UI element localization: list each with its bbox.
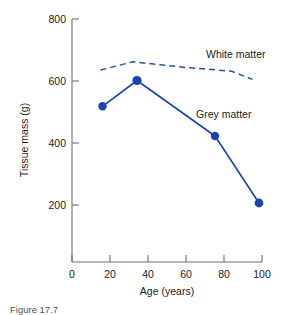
grey-matter-point-100 [255, 199, 264, 208]
white-matter-label: White matter [206, 48, 266, 60]
x-tick-label-60: 60 [180, 268, 192, 280]
figure-caption: Figure 17.7 [10, 304, 58, 315]
x-tick-label-40: 40 [142, 268, 154, 280]
y-tick-label-200: 200 [48, 199, 66, 211]
white-matter-line [101, 62, 253, 80]
grey-matter-point-82 [211, 132, 219, 140]
y-tick-label-400: 400 [48, 137, 66, 149]
tissue-mass-vs-age-chart: 800 600 400 200 0 20 40 60 80 100 Age (y… [0, 0, 283, 315]
y-ticks-group [72, 19, 79, 205]
x-tick-label-0: 0 [69, 268, 75, 280]
y-tick-labels-group: 800 600 400 200 [48, 13, 66, 211]
grey-matter-markers [98, 76, 263, 208]
grey-matter-label: Grey matter [196, 108, 252, 120]
x-tick-label-80: 80 [218, 268, 230, 280]
x-ticks-group [72, 255, 262, 262]
grey-matter-point-41 [132, 76, 141, 85]
grey-matter-point-22 [98, 102, 106, 110]
y-tick-label-600: 600 [48, 75, 66, 87]
x-tick-label-100: 100 [253, 268, 271, 280]
y-tick-label-800: 800 [48, 13, 66, 25]
figure-container: 800 600 400 200 0 20 40 60 80 100 Age (y… [0, 0, 283, 315]
x-axis-title: Age (years) [140, 285, 194, 297]
x-tick-labels-group: 0 20 40 60 80 100 [69, 268, 271, 280]
x-tick-label-20: 20 [104, 268, 116, 280]
grey-matter-line [103, 81, 260, 204]
y-axis-title: Tissue mass (g) [18, 103, 30, 177]
